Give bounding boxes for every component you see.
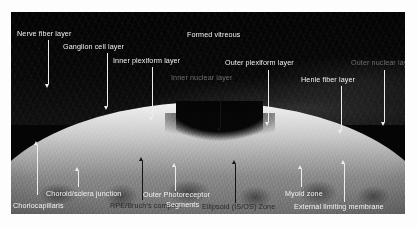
leader-outer-plexiform-layer <box>268 70 269 122</box>
label-outer-nuclear-layer: Outer nuclear layer <box>351 59 405 66</box>
arrow-choriocapillaris <box>34 141 38 145</box>
arrow-external-limiting-membrane <box>341 160 345 164</box>
arrow-choroid-sclera-junction <box>75 167 79 171</box>
arrow-rpe-bruchs-complex <box>139 157 143 161</box>
leader-myoid-zone <box>301 169 302 187</box>
leader-ellipsoid-isos-zone <box>235 164 236 203</box>
label-outer-photoreceptor-segments: Outer Photoreceptor <box>143 191 210 198</box>
leader-outer-nuclear-layer <box>384 70 385 122</box>
arrow-outer-photoreceptor-segments <box>172 163 176 167</box>
leader-outer-photoreceptor-segments <box>175 167 176 191</box>
label-henle-fiber-layer: Henle fiber layer <box>301 76 355 83</box>
label-myoid-zone: Myoid zone <box>285 190 323 197</box>
label-inner-nuclear-layer: Inner nuclear layer <box>171 74 232 81</box>
leader-nerve-fiber-layer <box>48 40 49 84</box>
oct-scan-image: Nerve fiber layer Ganglion cell layer In… <box>11 12 405 214</box>
label-ellipsoid-isos-zone: Ellipsoid (IS/OS) Zone <box>202 203 275 210</box>
leader-external-limiting-membrane <box>344 164 345 202</box>
label-nerve-fiber-layer: Nerve fiber layer <box>17 30 71 37</box>
leader-henle-fiber-layer <box>341 86 342 130</box>
label-outer-photoreceptor-segments-line2: Segments <box>166 201 199 208</box>
arrow-outer-nuclear-layer <box>381 122 385 126</box>
arrow-myoid-zone <box>298 165 302 169</box>
arrow-inner-plexiform-layer <box>149 117 153 121</box>
label-inner-plexiform-layer: Inner plexiform layer <box>113 57 180 64</box>
arrow-ganglion-cell-layer <box>104 106 108 110</box>
label-choroid-sclera-junction: Choroid/sclera junction <box>46 190 121 197</box>
label-formed-vitreous: Formed vitreous <box>187 31 240 38</box>
label-ganglion-cell-layer: Ganglion cell layer <box>63 43 124 50</box>
leader-ganglion-cell-layer <box>107 53 108 106</box>
label-outer-plexiform-layer: Outer plexiform layer <box>225 59 294 66</box>
arrow-inner-nuclear-layer <box>217 128 221 132</box>
leader-choriocapillaris <box>37 145 38 195</box>
arrow-henle-fiber-layer <box>338 130 342 134</box>
leader-inner-plexiform-layer <box>152 67 153 117</box>
leader-inner-nuclear-layer <box>220 84 221 128</box>
leader-choroid-sclera-junction <box>78 171 79 187</box>
arrow-nerve-fiber-layer <box>45 84 49 88</box>
oct-annotated-figure: Nerve fiber layer Ganglion cell layer In… <box>0 0 417 228</box>
arrow-outer-plexiform-layer <box>265 122 269 126</box>
arrow-ellipsoid-isos-zone <box>232 160 236 164</box>
label-external-limiting-membrane: External limiting membrane <box>294 203 384 210</box>
label-choriocapillaris: Choriocapillaris <box>13 202 64 209</box>
